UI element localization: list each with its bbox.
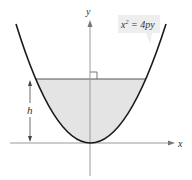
- x-axis-label: x: [177, 138, 183, 149]
- y-axis-label: y: [85, 6, 91, 17]
- h-arrow-up-icon: [28, 80, 32, 86]
- x-axis-arrow-icon: [168, 141, 175, 146]
- y-axis-arrow-icon: [88, 20, 93, 27]
- equation-label: x2 = 4py: [120, 19, 155, 30]
- right-angle-marker: [90, 72, 97, 79]
- h-arrow-down-icon: [28, 136, 32, 142]
- parabola-diagram: h x y x2 = 4py: [0, 0, 192, 180]
- height-label: h: [27, 104, 33, 116]
